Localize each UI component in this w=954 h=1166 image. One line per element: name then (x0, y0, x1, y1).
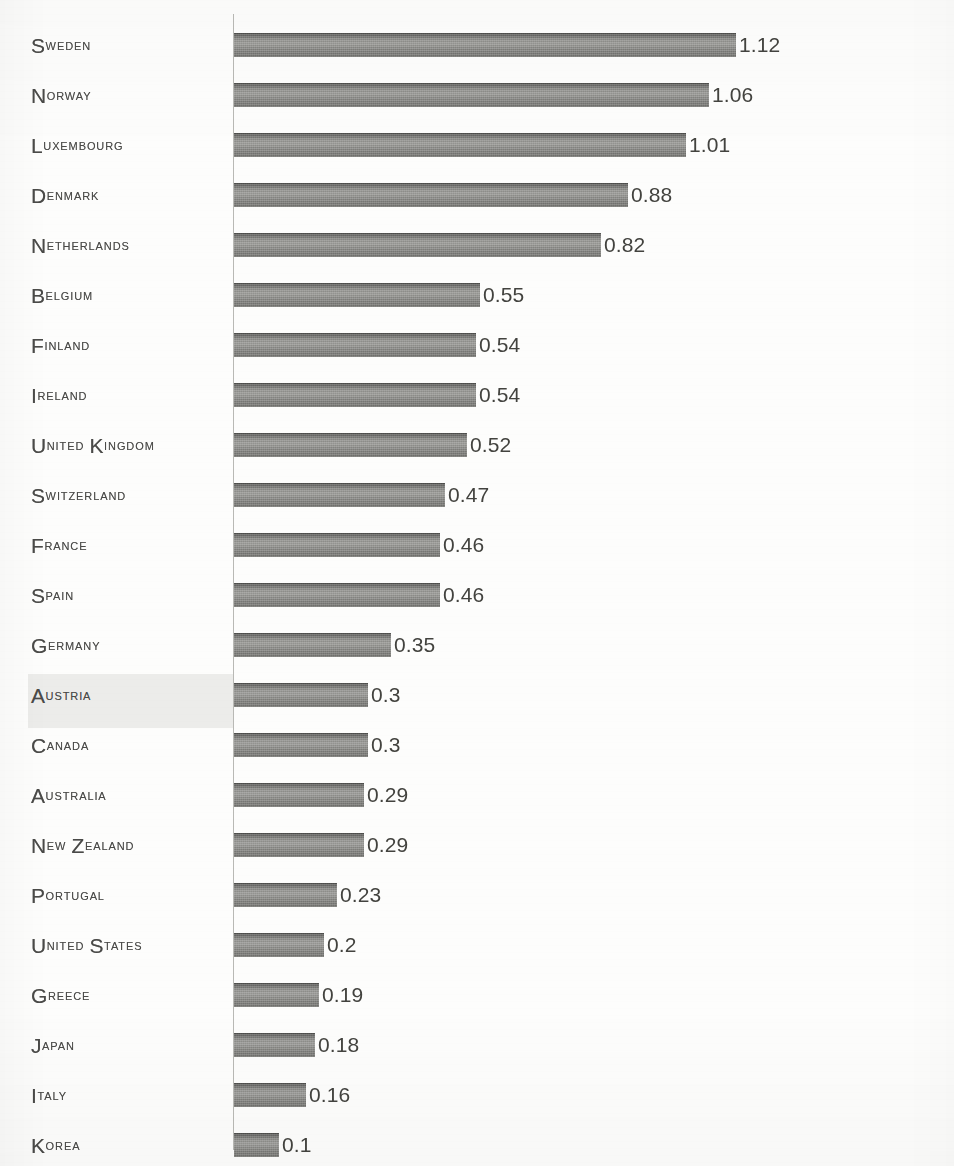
bar-value-label: 1.12 (739, 32, 780, 58)
bar-value-label: 0.3 (371, 732, 401, 758)
bar (234, 633, 391, 657)
bar-value-label: 0.23 (340, 882, 381, 908)
bar (234, 83, 709, 107)
bar-value-label: 0.2 (327, 932, 357, 958)
category-label: Ireland (31, 370, 227, 420)
bar (234, 133, 686, 157)
bar-row: Japan0.18 (0, 1020, 954, 1070)
bar-value-label: 0.52 (470, 432, 511, 458)
bar-value-label: 0.46 (443, 582, 484, 608)
bar-value-label: 0.29 (367, 832, 408, 858)
bar-row: New Zealand0.29 (0, 820, 954, 870)
bar (234, 283, 480, 307)
category-label: United Kingdom (31, 420, 227, 470)
category-label: Australia (31, 770, 227, 820)
bar (234, 383, 476, 407)
category-label: Portugal (31, 870, 227, 920)
bar-value-label: 0.88 (631, 182, 672, 208)
bar (234, 583, 440, 607)
category-label: Korea (31, 1120, 227, 1166)
bar-row: United Kingdom0.52 (0, 420, 954, 470)
bar (234, 483, 445, 507)
bar-value-label: 0.54 (479, 382, 520, 408)
bar-value-label: 0.29 (367, 782, 408, 808)
bar-value-label: 0.82 (604, 232, 645, 258)
bar (234, 833, 364, 857)
category-label: Austria (31, 670, 227, 720)
bar-value-label: 0.55 (483, 282, 524, 308)
bar-row: Luxembourg1.01 (0, 120, 954, 170)
bar-row: Germany0.35 (0, 620, 954, 670)
category-label: Finland (31, 320, 227, 370)
bar-row: Australia0.29 (0, 770, 954, 820)
bar-row: Finland0.54 (0, 320, 954, 370)
category-label: Switzerland (31, 470, 227, 520)
bar (234, 933, 324, 957)
category-label: Belgium (31, 270, 227, 320)
bar-row: Belgium0.55 (0, 270, 954, 320)
category-label: Greece (31, 970, 227, 1020)
bar-value-label: 0.19 (322, 982, 363, 1008)
bar-value-label: 0.18 (318, 1032, 359, 1058)
category-label: Spain (31, 570, 227, 620)
bar (234, 233, 601, 257)
bar-row: Austria0.3 (0, 670, 954, 720)
bar (234, 33, 736, 57)
bar-row: Italy0.16 (0, 1070, 954, 1120)
bar (234, 333, 476, 357)
bar-value-label: 0.47 (448, 482, 489, 508)
bar-value-label: 1.01 (689, 132, 730, 158)
bar-row: United States0.2 (0, 920, 954, 970)
bar-row: Sweden1.12 (0, 20, 954, 70)
bar-value-label: 0.46 (443, 532, 484, 558)
bar-row: Denmark0.88 (0, 170, 954, 220)
category-label: France (31, 520, 227, 570)
bar-row: Greece0.19 (0, 970, 954, 1020)
bar-value-label: 0.1 (282, 1132, 312, 1158)
bar-chart-page: Sweden1.12Norway1.06Luxembourg1.01Denmar… (0, 0, 954, 1166)
category-label: Luxembourg (31, 120, 227, 170)
category-label: Norway (31, 70, 227, 120)
category-label: Canada (31, 720, 227, 770)
category-label: United States (31, 920, 227, 970)
bar-value-label: 0.54 (479, 332, 520, 358)
bar-value-label: 0.35 (394, 632, 435, 658)
bar (234, 1133, 279, 1157)
bar-row: Norway1.06 (0, 70, 954, 120)
bar-row: Canada0.3 (0, 720, 954, 770)
bar (234, 533, 440, 557)
bar (234, 1033, 315, 1057)
category-label: Denmark (31, 170, 227, 220)
bar (234, 683, 368, 707)
bar-row: Korea0.1 (0, 1120, 954, 1166)
bar-value-label: 0.3 (371, 682, 401, 708)
bar-row: Spain0.46 (0, 570, 954, 620)
bar-value-label: 1.06 (712, 82, 753, 108)
bar (234, 1083, 306, 1107)
bar-row: Switzerland0.47 (0, 470, 954, 520)
bar (234, 433, 467, 457)
category-label: Italy (31, 1070, 227, 1120)
category-label: Sweden (31, 20, 227, 70)
category-label: Germany (31, 620, 227, 670)
category-label: Japan (31, 1020, 227, 1070)
bar-row: Portugal0.23 (0, 870, 954, 920)
bar (234, 733, 368, 757)
bar-row: Netherlands0.82 (0, 220, 954, 270)
bar-value-label: 0.16 (309, 1082, 350, 1108)
chart-plot-area: Sweden1.12Norway1.06Luxembourg1.01Denmar… (0, 0, 954, 1166)
category-label: New Zealand (31, 820, 227, 870)
bar (234, 983, 319, 1007)
bar-row: France0.46 (0, 520, 954, 570)
bar (234, 783, 364, 807)
bar-row: Ireland0.54 (0, 370, 954, 420)
bar (234, 883, 337, 907)
bar (234, 183, 628, 207)
category-label: Netherlands (31, 220, 227, 270)
